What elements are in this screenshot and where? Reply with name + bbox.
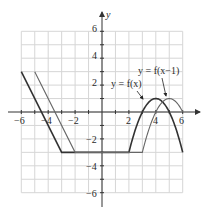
x-tick-label: −6 [14, 115, 25, 126]
x-tick-label: 6 [179, 115, 184, 126]
y-tick-label: 4 [92, 50, 97, 61]
label-f-of-x: y = f(x) [111, 78, 142, 90]
label-f-of-x-minus-1: y = f(x−1) [138, 65, 179, 77]
y-tick-label: −2 [86, 134, 97, 145]
function-graph: y −6 −4 −2 2 4 6 6 4 2 −2 −4 −6 y = f(x)… [0, 0, 213, 215]
y-tick-label: −4 [86, 161, 97, 172]
x-tick-label: 2 [126, 115, 131, 126]
y-tick-label: 2 [92, 77, 97, 88]
y-tick-label: 6 [92, 23, 97, 34]
y-axis-label: y [105, 9, 111, 20]
x-tick-label: −2 [68, 115, 79, 126]
y-tick-label: −6 [86, 188, 97, 199]
arrow-f-of-x-minus-1 [162, 78, 166, 96]
